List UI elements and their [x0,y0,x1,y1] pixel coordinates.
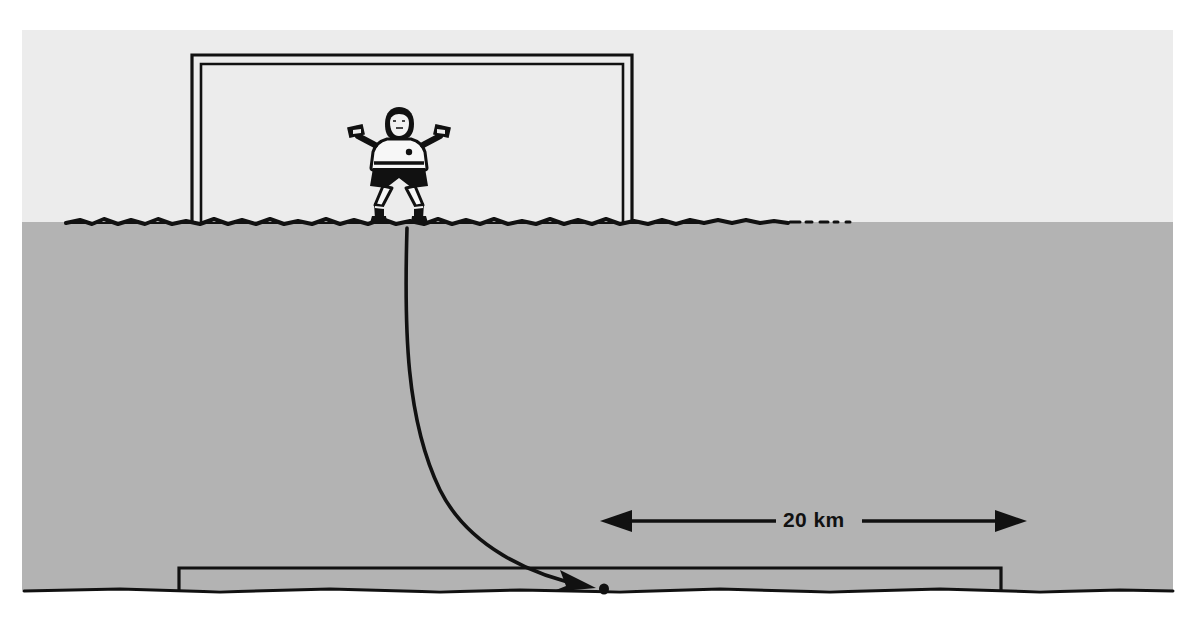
illustration-canvas: 20 km [0,0,1198,618]
distance-label: 20 km [783,509,845,530]
goalkeeper-right-boot [411,216,428,223]
scene-graphic [0,0,1198,618]
goalkeeper-left-boot [370,216,387,223]
sky-region [22,30,1173,222]
goalkeeper-torso [371,139,427,170]
ground-region [22,222,1173,590]
goalkeeper-shirt-crest [406,149,412,155]
